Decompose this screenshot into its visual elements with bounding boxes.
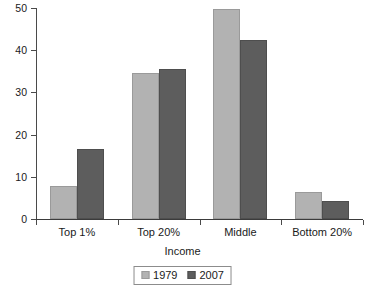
bar-1979-top-1 — [50, 186, 77, 219]
chart-legend: 1979 2007 — [133, 266, 232, 285]
y-tick-label-50: 50 — [0, 3, 27, 13]
category-label-top-1: Top 1% — [36, 226, 118, 239]
x-tick-0 — [36, 220, 37, 225]
bar-2007-top-1 — [77, 149, 104, 219]
category-label-bottom-20: Bottom 20% — [281, 226, 363, 239]
legend-swatch-2007 — [188, 271, 196, 279]
bar-2007-middle — [240, 40, 267, 219]
legend-entry-1979[interactable]: 1979 — [141, 269, 177, 281]
plot-area — [36, 8, 363, 219]
bar-1979-middle — [213, 9, 240, 219]
bar-2007-bottom-20 — [322, 201, 349, 219]
y-tick-label-30: 30 — [0, 87, 27, 97]
x-tick-3 — [281, 220, 282, 225]
y-tick-label-20: 20 — [0, 130, 27, 140]
legend-swatch-1979 — [141, 271, 149, 279]
bar-1979-bottom-20 — [295, 192, 322, 219]
y-tick-label-10: 10 — [0, 172, 27, 182]
bar-chart: 01020304050 Top 1%Top 20%MiddleBottom 20… — [0, 0, 365, 288]
legend-label-1979: 1979 — [153, 269, 177, 281]
x-tick-1 — [118, 220, 119, 225]
x-tick-2 — [200, 220, 201, 225]
y-tick-label-0: 0 — [0, 214, 27, 224]
y-tick-label-40: 40 — [0, 45, 27, 55]
legend-entry-2007[interactable]: 2007 — [188, 269, 224, 281]
x-axis-title: Income — [0, 245, 365, 258]
category-label-top-20: Top 20% — [118, 226, 200, 239]
category-label-middle: Middle — [200, 226, 282, 239]
legend-label-2007: 2007 — [200, 269, 224, 281]
x-tick-4 — [363, 220, 364, 225]
bar-1979-top-20 — [132, 73, 159, 219]
bar-2007-top-20 — [159, 69, 186, 219]
